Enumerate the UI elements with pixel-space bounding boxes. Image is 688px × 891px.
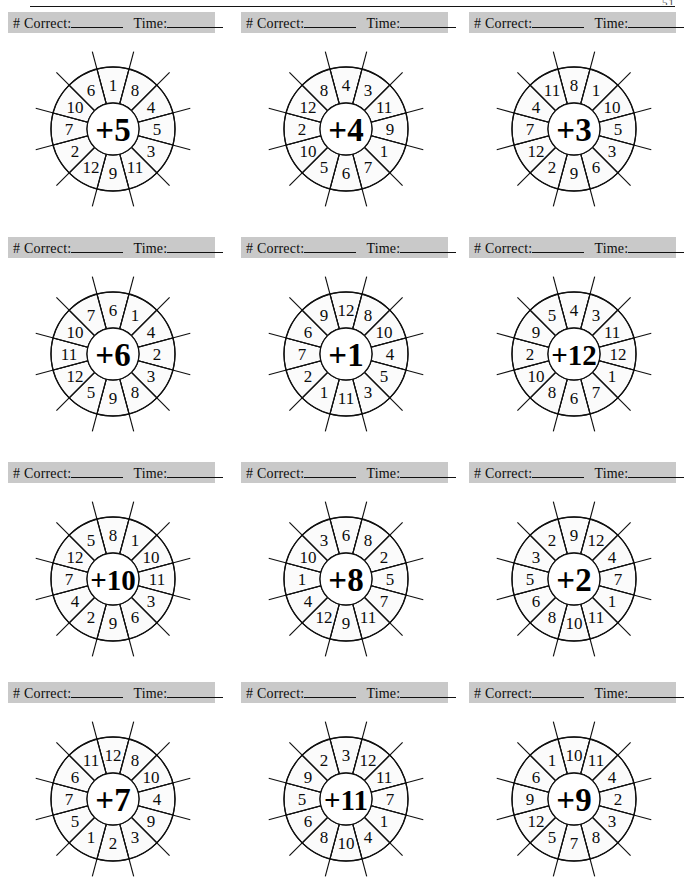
wheel-ring-number: 4 xyxy=(304,592,313,611)
wheel-ring-number: 8 xyxy=(364,306,373,325)
correct-blank[interactable] xyxy=(304,239,356,253)
time-blank[interactable] xyxy=(167,464,223,478)
correct-blank[interactable] xyxy=(304,464,356,478)
time-blank[interactable] xyxy=(167,684,223,698)
wheel-graphic: 811011369247125+10 xyxy=(0,482,227,682)
wheel-ring-number: 4 xyxy=(71,592,80,611)
wheel-ring-number: 8 xyxy=(320,828,329,847)
correct-label: # Correct: xyxy=(246,686,304,701)
wheel-ring-number: 12 xyxy=(588,531,605,550)
time-blank[interactable] xyxy=(628,684,684,698)
wheel-ring-number: 9 xyxy=(320,306,329,325)
wheel-graphic: 101142387512961+9 xyxy=(461,702,688,891)
wheel-ring-number: 3 xyxy=(608,812,617,831)
wheel-ring-number: 6 xyxy=(570,389,579,408)
wheel-ring-number: 10 xyxy=(66,98,83,117)
time-blank[interactable] xyxy=(167,14,223,28)
wheel-ring-number: 7 xyxy=(65,120,74,139)
wheel-plus-5: 184531191227106+5 xyxy=(0,32,227,232)
wheel-ring-number: 12 xyxy=(527,142,544,161)
wheel-ring-number: 8 xyxy=(131,751,140,770)
wheel-ring-number: 4 xyxy=(147,98,156,117)
wheel-ring-number: 5 xyxy=(87,383,96,402)
wheel-ring-number: 3 xyxy=(364,81,373,100)
time-blank[interactable] xyxy=(628,464,684,478)
correct-blank[interactable] xyxy=(304,684,356,698)
wheel-plus-9: 101142387512961+9 xyxy=(461,702,688,891)
wheel-graphic: 128104531112769+1 xyxy=(233,257,460,457)
wheel-ring-number: 2 xyxy=(548,158,557,177)
correct-blank[interactable] xyxy=(532,684,584,698)
wheel-ring-number: 10 xyxy=(566,614,583,633)
wheel-ring-number: 5 xyxy=(386,570,395,589)
wheel-ring-number: 12 xyxy=(316,608,333,627)
wheel-ring-number: 5 xyxy=(548,828,557,847)
time-blank[interactable] xyxy=(400,684,456,698)
time-blank[interactable] xyxy=(628,14,684,28)
wheel-ring-number: 10 xyxy=(299,548,316,567)
correct-blank[interactable] xyxy=(71,239,123,253)
wheel-ring-number: 4 xyxy=(608,768,617,787)
wheel-ring-number: 2 xyxy=(614,790,623,809)
wheel-ring-number: 12 xyxy=(360,751,377,770)
score-bar: # Correct:Time: xyxy=(8,682,215,703)
wheel-ring-number: 12 xyxy=(338,301,355,320)
wheel-ring-number: 9 xyxy=(526,790,535,809)
time-label: Time: xyxy=(133,686,167,701)
time-label: Time: xyxy=(594,16,628,31)
wheel-center-operator: +1 xyxy=(328,337,363,373)
wheel-ring-number: 2 xyxy=(320,751,329,770)
wheel-ring-number: 2 xyxy=(304,367,313,386)
wheel-ring-number: 5 xyxy=(380,367,389,386)
correct-blank[interactable] xyxy=(71,464,123,478)
wheel-ring-number: 3 xyxy=(147,367,156,386)
wheel-ring-number: 11 xyxy=(544,81,560,100)
problem-cell-wheel-plus-1: # Correct:Time:128104531112769+1 xyxy=(233,237,460,459)
correct-blank[interactable] xyxy=(532,239,584,253)
problem-cell-wheel-plus-7: # Correct:Time:128104932157611+7 xyxy=(0,682,227,891)
time-blank[interactable] xyxy=(400,464,456,478)
wheel-ring-number: 6 xyxy=(87,81,96,100)
score-bar: # Correct:Time: xyxy=(241,237,448,258)
correct-blank[interactable] xyxy=(304,14,356,28)
time-blank[interactable] xyxy=(167,239,223,253)
correct-blank[interactable] xyxy=(532,464,584,478)
wheel-center-operator: +2 xyxy=(556,562,591,598)
problem-cell-wheel-plus-11: # Correct:Time:312117141086592+11 xyxy=(233,682,460,891)
score-bar: # Correct:Time: xyxy=(8,237,215,258)
wheel-plus-8: 682571191241103+8 xyxy=(233,482,460,682)
wheel-ring-number: 7 xyxy=(526,120,535,139)
wheel-ring-number: 1 xyxy=(131,306,140,325)
time-blank[interactable] xyxy=(400,14,456,28)
wheel-ring-number: 3 xyxy=(147,592,156,611)
wheel-ring-number: 1 xyxy=(109,76,118,95)
wheel-ring-number: 8 xyxy=(364,531,373,550)
wheel-ring-number: 1 xyxy=(87,828,96,847)
wheel-ring-number: 3 xyxy=(364,383,373,402)
time-blank[interactable] xyxy=(628,239,684,253)
wheel-ring-number: 2 xyxy=(153,345,162,364)
problem-cell-wheel-plus-8: # Correct:Time:682571191241103+8 xyxy=(233,462,460,684)
wheel-ring-number: 3 xyxy=(592,306,601,325)
correct-label: # Correct: xyxy=(13,241,71,256)
time-label: Time: xyxy=(594,686,628,701)
wheel-ring-number: 11 xyxy=(338,389,354,408)
correct-blank[interactable] xyxy=(532,14,584,28)
wheel-ring-number: 3 xyxy=(532,548,541,567)
wheel-ring-number: 7 xyxy=(65,790,74,809)
wheel-center-operator: +9 xyxy=(556,782,591,818)
wheel-ring-number: 6 xyxy=(532,592,541,611)
wheel-ring-number: 3 xyxy=(131,828,140,847)
correct-blank[interactable] xyxy=(71,14,123,28)
wheel-ring-number: 11 xyxy=(376,768,392,787)
wheel-ring-number: 2 xyxy=(526,345,535,364)
wheel-ring-number: 11 xyxy=(588,608,604,627)
wheel-ring-number: 8 xyxy=(320,81,329,100)
wheel-ring-number: 11 xyxy=(83,751,99,770)
correct-blank[interactable] xyxy=(71,684,123,698)
wheel-ring-number: 1 xyxy=(320,383,329,402)
time-blank[interactable] xyxy=(400,239,456,253)
wheel-ring-number: 5 xyxy=(526,570,535,589)
top-rule xyxy=(30,6,675,7)
wheel-ring-number: 6 xyxy=(131,608,140,627)
